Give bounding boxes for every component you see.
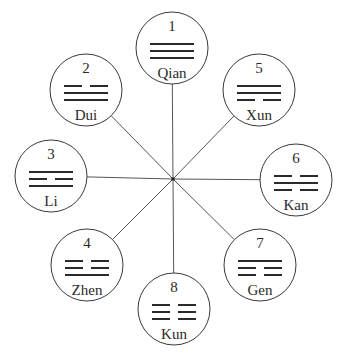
node-number: 6: [292, 150, 300, 166]
spoke-line: [87, 177, 173, 179]
node-number: 1: [168, 18, 176, 34]
center-hub: [172, 178, 175, 181]
node-number: 5: [255, 60, 263, 76]
node-name: Qian: [157, 65, 187, 81]
trigram-node-gen: 7Gen: [224, 229, 296, 301]
spoke-line: [172, 84, 173, 179]
spoke-line: [113, 179, 174, 240]
trigram-node-dui: 2Dui: [50, 54, 122, 126]
node-name: Gen: [248, 282, 273, 298]
trigram-node-qian: 1Qian: [136, 12, 208, 84]
node-number: 7: [256, 235, 264, 251]
node-name: Kan: [284, 197, 309, 213]
node-number: 3: [47, 146, 55, 162]
spoke-line: [111, 116, 173, 179]
spoke-line: [173, 116, 234, 179]
node-number: 2: [82, 60, 90, 76]
node-number: 8: [170, 279, 178, 295]
trigram-diagram-canvas: 1Qian2Dui3Li4Zhen5Xun6Kan7Gen8Kun: [0, 0, 344, 361]
node-name: Kun: [161, 326, 187, 342]
spoke-line: [173, 179, 234, 240]
node-name: Dui: [75, 107, 98, 123]
trigram-node-kun: 8Kun: [138, 273, 210, 345]
node-name: Zhen: [72, 282, 103, 298]
node-number: 4: [83, 235, 91, 251]
spoke-line: [173, 179, 174, 273]
trigram-node-kan: 6Kan: [260, 144, 332, 216]
spoke-line: [173, 179, 260, 180]
node-name: Xun: [246, 107, 272, 123]
trigram-node-zhen: 4Zhen: [51, 229, 123, 301]
node-name: Li: [44, 193, 57, 209]
trigram-node-xun: 5Xun: [223, 54, 295, 126]
trigram-diagram: 1Qian2Dui3Li4Zhen5Xun6Kan7Gen8Kun: [0, 0, 344, 361]
trigram-node-li: 3Li: [15, 140, 87, 212]
